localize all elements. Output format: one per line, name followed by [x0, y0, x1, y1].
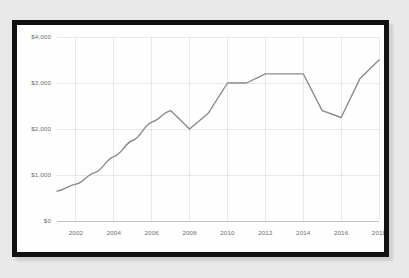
chart-card: $0$1,000$2,000$3,000$4,000 2002200420062…	[17, 25, 384, 252]
x-axis-tick-labels: 200220042006200820102012201420162018	[69, 229, 384, 236]
y-axis-tick-labels: $0$1,000$2,000$3,000$4,000	[31, 33, 51, 224]
y-axis-tick-label: $1,000	[31, 171, 51, 178]
y-axis-tick-label: $0	[44, 217, 52, 224]
y-axis-tick-label: $2,000	[31, 125, 51, 132]
series-line-path	[57, 60, 379, 191]
x-axis-tick-label: 2018	[372, 229, 384, 236]
x-axis-tick-label: 2010	[220, 229, 235, 236]
line-chart: $0$1,000$2,000$3,000$4,000 2002200420062…	[17, 25, 384, 252]
screenshot-root: $0$1,000$2,000$3,000$4,000 2002200420062…	[0, 0, 409, 278]
x-axis-tick-label: 2012	[258, 229, 273, 236]
x-axis-tick-label: 2014	[296, 229, 311, 236]
x-axis-tick-label: 2008	[182, 229, 197, 236]
x-axis-tick-label: 2004	[107, 229, 122, 236]
y-axis-tick-label: $3,000	[31, 79, 51, 86]
x-axis-tick-label: 2002	[69, 229, 84, 236]
chart-frame: $0$1,000$2,000$3,000$4,000 2002200420062…	[12, 20, 389, 257]
x-axis-tick-label: 2006	[145, 229, 160, 236]
gridlines-group	[57, 37, 379, 221]
y-axis-tick-label: $4,000	[31, 33, 51, 40]
x-axis-tick-label: 2016	[334, 229, 349, 236]
